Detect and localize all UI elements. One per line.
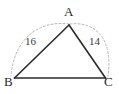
arc-ab-dashed: [11, 23, 69, 76]
side-ab-line: [15, 25, 70, 78]
vertex-label-b: B: [4, 75, 13, 88]
side-length-label-ab: 16: [25, 36, 36, 47]
side-ac-line: [69, 25, 106, 78]
geometry-canvas: [0, 0, 119, 94]
vertex-label-a: A: [64, 5, 73, 18]
arc-ac-dashed: [70, 24, 109, 76]
side-length-label-ac: 14: [89, 36, 100, 47]
vertex-label-c: C: [104, 75, 113, 88]
triangle-diagram: A B C 16 14: [0, 0, 119, 94]
